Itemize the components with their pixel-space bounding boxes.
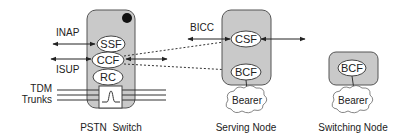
serving-node: CSF BCF Bearer: [222, 10, 271, 113]
isup-label: ISUP: [56, 64, 80, 75]
switching-bcf-label: BCF: [341, 62, 363, 74]
trunks-label: Trunks: [22, 94, 52, 105]
network-diagram: SSF CCF RC INAP ISUP TDM Trunks CSF BCF …: [0, 0, 405, 140]
ccf-label: CCF: [97, 54, 120, 66]
switching-node-label: Switching Node: [318, 122, 388, 133]
status-dot-icon: [122, 13, 132, 23]
ccf-bcf-dotted-link: [124, 64, 231, 70]
ccf-csf-dotted-link: [124, 41, 231, 56]
bcf-label: BCF: [235, 66, 257, 78]
bicc-label: BICC: [190, 22, 214, 33]
bearer-label: Bearer: [232, 95, 263, 106]
ssf-label: SSF: [100, 38, 122, 50]
csf-label: CSF: [235, 33, 257, 45]
rc-label: RC: [100, 71, 116, 83]
inap-label: INAP: [56, 27, 80, 38]
serving-node-label: Serving Node: [216, 122, 277, 133]
pstn-switch-label: PSTN Switch: [80, 122, 142, 133]
tdm-label: TDM: [30, 83, 52, 94]
switch-matrix-icon: [99, 86, 122, 108]
switching-bearer-label: Bearer: [338, 95, 369, 106]
switching-node: BCF Bearer: [329, 52, 378, 113]
